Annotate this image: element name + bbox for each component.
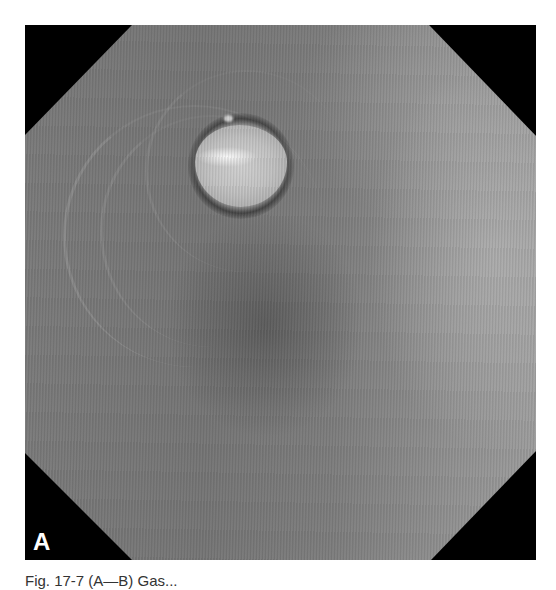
- panel-label: A: [33, 530, 50, 554]
- figure-caption: Fig. 17-7 (A—B) Gas...: [25, 572, 556, 590]
- endoscopy-figure: A: [25, 25, 536, 560]
- endoscopic-image: [25, 25, 536, 560]
- lesion-highlight: [224, 115, 233, 122]
